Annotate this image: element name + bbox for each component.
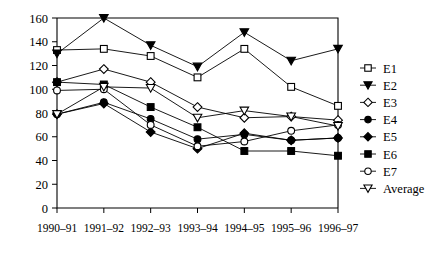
legend-marker-e5 xyxy=(364,133,372,141)
x-tick-label: 1995–96 xyxy=(271,222,312,234)
legend-item-e1[interactable]: E1 xyxy=(360,62,397,76)
data-point-e3-3 xyxy=(193,103,202,112)
legend-item-e6[interactable]: E6 xyxy=(360,148,397,162)
data-point-e2-6 xyxy=(334,45,343,53)
data-point-e4-3 xyxy=(194,136,201,143)
data-point-e7-2 xyxy=(147,121,154,128)
data-point-e6-2 xyxy=(147,104,154,111)
series-lines xyxy=(57,18,338,156)
legend-label-e2: E2 xyxy=(383,79,397,93)
legend: E1E2E3E4E5E6E7Average xyxy=(360,62,425,196)
legend-marker-e4 xyxy=(365,116,371,122)
data-point-e6-5 xyxy=(288,148,295,155)
series-line-e2 xyxy=(57,18,338,67)
legend-label-e7: E7 xyxy=(383,165,397,179)
data-point-e7-4 xyxy=(241,138,248,145)
legend-item-e4[interactable]: E4 xyxy=(360,113,398,127)
data-point-e1-4 xyxy=(241,45,248,52)
legend-label-e6: E6 xyxy=(383,148,397,162)
x-tick-label: 1991–92 xyxy=(84,222,125,234)
legend-item-average[interactable]: Average xyxy=(360,182,425,196)
legend-marker-e6 xyxy=(365,151,371,157)
data-point-e1-3 xyxy=(194,74,201,81)
data-point-e5-2 xyxy=(146,128,155,137)
y-tick-label: 80 xyxy=(36,107,49,121)
legend-label-average: Average xyxy=(383,182,425,196)
legend-marker-e1 xyxy=(365,65,371,71)
legend-item-e7[interactable]: E7 xyxy=(360,165,397,179)
legend-label-e5: E5 xyxy=(383,130,397,144)
data-point-e2-3 xyxy=(193,63,202,71)
data-point-e2-4 xyxy=(240,29,249,37)
y-tick-label: 60 xyxy=(36,130,49,144)
x-tick-label: 1990–91 xyxy=(37,222,78,234)
data-point-e3-1 xyxy=(99,65,108,74)
data-point-e1-1 xyxy=(100,45,107,52)
legend-item-e2[interactable]: E2 xyxy=(360,79,397,93)
data-point-e1-5 xyxy=(288,83,295,90)
data-point-e5-5 xyxy=(287,136,296,145)
data-point-e5-6 xyxy=(334,134,343,143)
legend-label-e4: E4 xyxy=(383,113,398,127)
y-tick-label: 40 xyxy=(36,154,49,168)
x-tick-label: 1993–94 xyxy=(177,222,218,234)
data-point-average-3 xyxy=(193,114,202,122)
y-tick-label: 0 xyxy=(42,202,48,216)
data-point-e6-0 xyxy=(54,79,61,86)
y-tick-label: 120 xyxy=(29,59,48,73)
data-point-e2-2 xyxy=(146,42,155,50)
data-point-e1-6 xyxy=(335,102,342,109)
y-tick-label: 100 xyxy=(29,83,48,97)
data-point-e7-3 xyxy=(194,143,201,150)
legend-item-e3[interactable]: E3 xyxy=(360,96,397,110)
legend-label-e1: E1 xyxy=(383,62,397,76)
y-tick-label: 140 xyxy=(29,35,48,49)
x-tick-label: 1994–95 xyxy=(224,222,265,234)
x-tick-label: 1996–97 xyxy=(318,222,359,234)
chart-canvas: 0204060801001201401601990–911991–921992–… xyxy=(0,0,439,255)
line-chart: 0204060801001201401601990–911991–921992–… xyxy=(0,0,439,255)
y-tick-label: 160 xyxy=(29,12,48,26)
data-point-e7-0 xyxy=(54,87,61,94)
data-point-e6-6 xyxy=(335,152,342,159)
legend-item-e5[interactable]: E5 xyxy=(360,130,397,144)
data-point-e1-2 xyxy=(147,53,154,60)
y-tick-label: 20 xyxy=(36,178,49,192)
data-point-e6-3 xyxy=(194,124,201,131)
series-markers xyxy=(53,14,343,159)
data-point-e7-5 xyxy=(288,127,295,134)
legend-marker-e3 xyxy=(364,98,372,106)
data-point-e2-5 xyxy=(287,57,296,65)
data-point-e6-4 xyxy=(241,148,248,155)
legend-marker-e7 xyxy=(365,168,371,174)
legend-label-e3: E3 xyxy=(383,96,397,110)
x-tick-label: 1992–93 xyxy=(131,222,172,234)
